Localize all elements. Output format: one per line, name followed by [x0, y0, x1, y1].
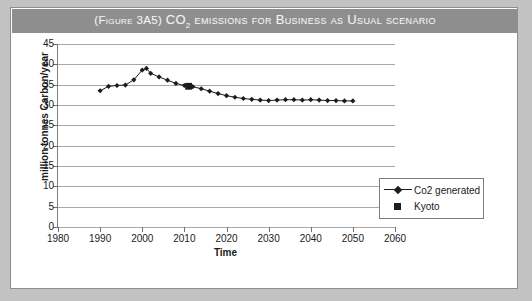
data-point-marker [333, 98, 338, 103]
x-axis-tick [227, 227, 228, 232]
x-axis-tick [100, 227, 101, 232]
y-axis-tick-label: 10 [20, 180, 54, 191]
data-point-marker [342, 98, 347, 103]
data-point-marker [258, 98, 263, 103]
legend-key-square-icon [384, 199, 412, 213]
y-axis-tick-label: 20 [20, 140, 54, 151]
x-axis-tick-label: 1990 [78, 233, 122, 244]
data-point-marker [114, 83, 119, 88]
y-axis-tick-label: 30 [20, 99, 54, 110]
figure-title-banner: (Figure 3A5) CO2 emissions for Business … [12, 9, 518, 33]
y-axis-tick-label: 15 [20, 160, 54, 171]
series-markers-kyoto [185, 83, 192, 90]
plot-area: 051015202530354045 198019902000201020202… [57, 44, 395, 228]
chart-canvas: million tonnes Carbon/year 0510152025303… [11, 33, 517, 288]
data-point-marker [266, 98, 271, 103]
data-point-marker [241, 96, 246, 101]
data-point-marker [165, 78, 170, 83]
data-point-marker [325, 98, 330, 103]
y-axis-tick-label: 45 [20, 38, 54, 49]
x-axis-tick [184, 227, 185, 232]
chart-legend: Co2 generated Kyoto [379, 178, 484, 219]
x-axis-tick [353, 227, 354, 232]
data-point-marker [106, 84, 111, 89]
legend-item-kyoto[interactable]: Kyoto [384, 198, 479, 214]
legend-item-co2-generated[interactable]: Co2 generated [384, 182, 479, 198]
data-point-marker [350, 98, 355, 103]
legend-label-co2-generated: Co2 generated [412, 185, 480, 196]
y-axis-tick-label: 35 [20, 79, 54, 90]
x-axis-tick [311, 227, 312, 232]
data-series-group [58, 44, 395, 227]
x-axis-tick [142, 227, 143, 232]
figure-title: (Figure 3A5) CO2 emissions for Business … [94, 12, 436, 30]
y-axis-tick-label: 5 [20, 201, 54, 212]
data-point-marker [308, 97, 313, 102]
x-axis-tick [269, 227, 270, 232]
x-axis-title: Time [57, 247, 394, 258]
figure-title-prefix: (Figure 3A5) [94, 14, 162, 26]
data-point-marker [98, 88, 103, 93]
figure-card: (Figure 3A5) CO2 emissions for Business … [10, 7, 518, 289]
data-point-marker [215, 91, 220, 96]
data-point-marker [199, 86, 204, 91]
data-point-marker [249, 97, 254, 102]
x-axis-tick-label: 1980 [36, 233, 80, 244]
data-point-marker [291, 97, 296, 102]
x-axis-tick-label: 2040 [289, 233, 333, 244]
data-point-marker [274, 98, 279, 103]
data-point-marker [173, 81, 178, 86]
y-axis-tick-label: 40 [20, 58, 54, 69]
legend-key-line-diamond-icon [384, 183, 412, 197]
page-background: (Figure 3A5) CO2 emissions for Business … [0, 0, 532, 301]
data-point-marker [317, 98, 322, 103]
kyoto-data-point-marker [185, 83, 192, 90]
data-point-marker [232, 95, 237, 100]
x-axis-tick-label: 2000 [120, 233, 164, 244]
x-axis-tick-label: 2030 [247, 233, 291, 244]
legend-label-kyoto: Kyoto [412, 201, 440, 212]
x-axis-tick [58, 227, 59, 232]
series-markers-co2-generated [98, 66, 356, 104]
x-axis-tick [395, 227, 396, 232]
x-axis-tick-label: 2010 [162, 233, 206, 244]
data-point-marker [283, 97, 288, 102]
x-axis-tick-label: 2020 [205, 233, 249, 244]
data-point-marker [224, 93, 229, 98]
data-point-marker [157, 74, 162, 79]
figure-title-main-post: emissions for Business as Usual scenario [191, 12, 436, 27]
y-axis-title: million tonnes Carbon/year [39, 32, 50, 202]
data-point-marker [300, 98, 305, 103]
data-point-marker [207, 89, 212, 94]
figure-title-main-pre: CO [166, 12, 186, 27]
data-point-marker [123, 82, 128, 87]
x-axis-tick-label: 2050 [331, 233, 375, 244]
x-axis-tick-label: 2060 [373, 233, 417, 244]
y-axis-tick-label: 25 [20, 119, 54, 130]
y-axis-tick-label: 0 [20, 221, 54, 232]
